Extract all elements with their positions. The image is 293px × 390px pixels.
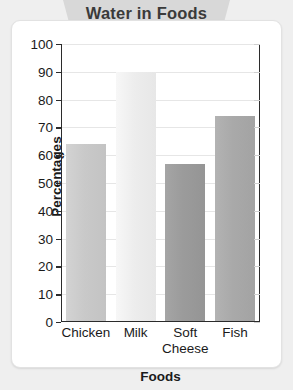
y-axis-tick-right (254, 211, 260, 212)
y-axis-tick-right (254, 72, 260, 73)
plot-area: 0102030405060708090100 (61, 44, 260, 322)
x-axis-tick-label: Milk (111, 325, 161, 341)
y-axis-tick (56, 155, 61, 156)
x-axis-tick-label: Chicken (61, 325, 111, 341)
y-axis-tick-label: 10 (19, 287, 53, 302)
y-axis-tick (56, 211, 61, 212)
chart-card: Percentages 0102030405060708090100 Chick… (11, 20, 282, 368)
y-axis-tick (56, 239, 61, 240)
y-axis-tick (56, 127, 61, 128)
y-axis-tick-label: 60 (19, 148, 53, 163)
y-axis-tick-label: 90 (19, 64, 53, 79)
y-axis-tick-label: 70 (19, 120, 53, 135)
y-axis-tick-right (254, 155, 260, 156)
y-axis-tick-right (254, 294, 260, 295)
y-axis-tick-right (254, 100, 260, 101)
y-axis-tick (56, 183, 61, 184)
y-axis-tick-label: 40 (19, 203, 53, 218)
x-axis-title: Foods (61, 369, 260, 384)
y-axis-tick (56, 322, 61, 323)
y-axis-tick-right (254, 266, 260, 267)
y-axis-tick-label: 100 (19, 37, 53, 52)
y-axis-tick-label: 80 (19, 92, 53, 107)
y-axis-tick-label: 30 (19, 231, 53, 246)
y-axis-tick-label: 0 (19, 315, 53, 330)
y-axis-tick-label: 20 (19, 259, 53, 274)
x-axis-tick-label: Fish (210, 325, 260, 341)
y-axis-tick-label: 50 (19, 176, 53, 191)
y-axis-tick-right (254, 44, 260, 45)
y-axis-tick (56, 294, 61, 295)
chart-figure: Water in Foods Percentages 0102030405060… (0, 0, 293, 390)
x-axis-tick-label: Soft Cheese (161, 325, 211, 356)
y-axis-tick (56, 266, 61, 267)
y-axis-tick-right (254, 322, 260, 323)
y-axis-tick-right (254, 239, 260, 240)
y-axis-tick-right (254, 183, 260, 184)
plot-frame (61, 44, 260, 322)
y-axis-tick-right (254, 127, 260, 128)
y-axis-tick (56, 44, 61, 45)
y-axis-tick (56, 100, 61, 101)
y-axis-tick (56, 72, 61, 73)
